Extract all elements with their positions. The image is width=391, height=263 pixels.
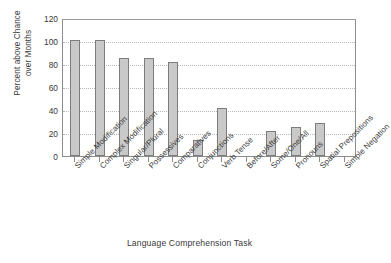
gridline-40 bbox=[63, 111, 355, 112]
y-tick-label-100: 100 bbox=[32, 38, 58, 46]
x-axis-title: Language Comprehension Task bbox=[0, 238, 379, 248]
y-tick-label-20: 20 bbox=[32, 130, 58, 138]
gridline-60 bbox=[63, 88, 355, 89]
y-tick-label-0: 0 bbox=[32, 153, 58, 161]
y-tick-label-120: 120 bbox=[32, 15, 58, 23]
gridline-80 bbox=[63, 65, 355, 66]
y-tick-label-60: 60 bbox=[32, 84, 58, 92]
gridline-100 bbox=[63, 42, 355, 43]
bar bbox=[70, 40, 80, 156]
y-tick-label-80: 80 bbox=[32, 61, 58, 69]
y-tick-label-40: 40 bbox=[32, 107, 58, 115]
